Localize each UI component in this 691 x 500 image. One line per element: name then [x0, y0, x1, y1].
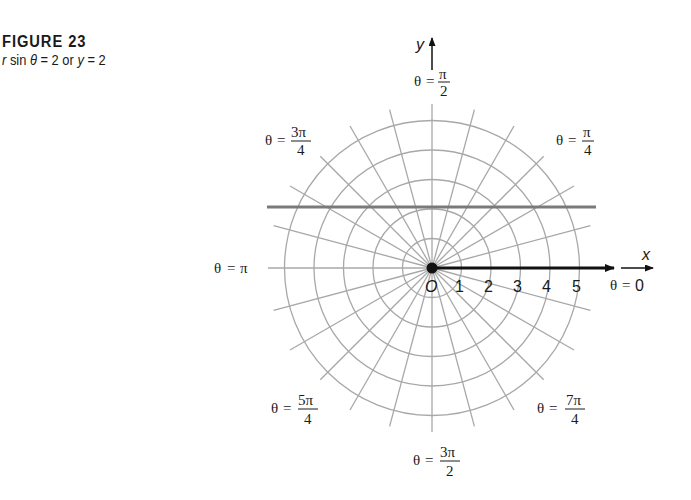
- svg-text:=: =: [283, 400, 291, 416]
- grid-ray-135deg: [320, 156, 432, 268]
- y-axis-label: y: [415, 36, 425, 53]
- grid-ray-240deg: [350, 268, 432, 410]
- angle-label-pi: θ = π: [214, 260, 248, 276]
- svg-text:θ: θ: [537, 400, 544, 416]
- svg-text:=: =: [277, 132, 285, 148]
- svg-text:=: =: [622, 277, 630, 293]
- angle-label-3pi-over-2: θ = 3π 2: [413, 444, 460, 479]
- angle-label-zero: θ = 0: [610, 277, 644, 294]
- grid-ray-30deg: [432, 186, 574, 268]
- svg-text:2: 2: [440, 83, 448, 99]
- grid-ray-300deg: [432, 268, 514, 410]
- polar-graph: x y O 1 2 3 4 5 θ = π 2 θ = 3π 4 θ = π 4…: [0, 0, 691, 500]
- grid-ray-330deg: [432, 268, 574, 350]
- grid-ray-105deg: [390, 110, 432, 268]
- origin-label: O: [425, 278, 437, 295]
- svg-text:0: 0: [635, 277, 644, 294]
- svg-text:=: =: [568, 132, 576, 148]
- angle-label-5pi-over-4: θ = 5π 4: [271, 392, 318, 427]
- tick-label-1: 1: [455, 278, 464, 295]
- origin-pole: [427, 263, 438, 274]
- svg-text:π: π: [583, 124, 591, 140]
- grid-ray-210deg: [290, 268, 432, 350]
- tick-label-4: 4: [542, 278, 551, 295]
- grid-ray-45deg: [432, 156, 544, 268]
- angle-label-pi-over-2: θ = π 2: [414, 66, 450, 99]
- svg-text:4: 4: [584, 142, 592, 158]
- svg-text:θ: θ: [214, 260, 221, 276]
- svg-text:θ: θ: [610, 277, 617, 293]
- svg-text:=: =: [426, 73, 434, 89]
- grid-ray-195deg: [274, 268, 432, 310]
- tick-label-5: 5: [572, 278, 581, 295]
- svg-text:4: 4: [297, 142, 305, 158]
- grid-ray-165deg: [274, 226, 432, 268]
- svg-text:4: 4: [304, 411, 312, 427]
- x-axis-label: x: [641, 246, 651, 263]
- grid-ray-15deg: [432, 226, 590, 268]
- grid-ray-60deg: [432, 126, 514, 268]
- angle-label-3pi-over-4: θ = 3π 4: [265, 124, 311, 158]
- angle-label-7pi-over-4: θ = 7π 4: [537, 392, 585, 427]
- grid-ray-285deg: [432, 268, 474, 426]
- svg-text:θ: θ: [556, 132, 563, 148]
- grid-ray-225deg: [320, 268, 432, 380]
- svg-text:5π: 5π: [298, 392, 314, 408]
- angle-label-pi-over-4: θ = π 4: [556, 124, 594, 158]
- svg-text:3π: 3π: [291, 124, 307, 140]
- svg-text:4: 4: [571, 411, 579, 427]
- svg-text:2: 2: [446, 463, 454, 479]
- svg-text:7π: 7π: [566, 392, 582, 408]
- svg-text:θ: θ: [413, 452, 420, 468]
- svg-text:θ: θ: [414, 73, 421, 89]
- grid-ray-150deg: [290, 186, 432, 268]
- tick-label-3: 3: [513, 278, 522, 295]
- svg-text:=: =: [549, 400, 557, 416]
- svg-text:π: π: [439, 66, 447, 82]
- svg-text:π: π: [240, 260, 248, 276]
- svg-text:=: =: [425, 452, 433, 468]
- svg-text:3π: 3π: [440, 444, 456, 460]
- svg-text:θ: θ: [265, 132, 272, 148]
- tick-label-2: 2: [484, 278, 493, 295]
- svg-text:θ: θ: [271, 400, 278, 416]
- grid-ray-120deg: [350, 126, 432, 268]
- svg-text:=: =: [227, 260, 235, 276]
- grid-ray-75deg: [432, 110, 474, 268]
